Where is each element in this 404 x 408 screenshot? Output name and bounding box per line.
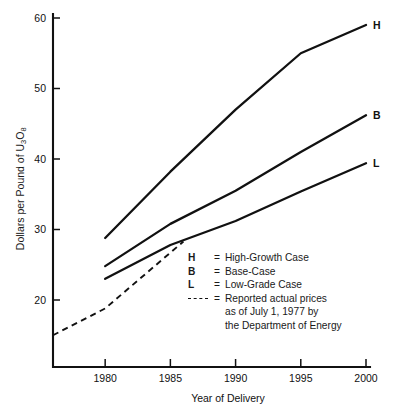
chart-figure: 203040506019801985199019952000 HBL Year … (0, 0, 404, 408)
x-axis-tick-label: 1995 (289, 372, 313, 384)
y-axis-title: Dollars per Pound of U3O8 (15, 99, 27, 279)
dashed-line-swatch-icon (188, 292, 214, 299)
legend-item: L=Low-Grade Case (188, 278, 342, 292)
legend-equals-sign: = (214, 265, 225, 279)
legend-key-L: L (188, 278, 214, 292)
legend-label: High-Growth Case (225, 251, 309, 265)
legend-label: Reported actual prices as of July 1, 197… (225, 292, 342, 333)
y-axis-tick-label: 40 (34, 153, 46, 165)
legend-equals-sign: = (214, 292, 225, 306)
legend-item: =Reported actual prices as of July 1, 19… (188, 292, 342, 333)
series-line-reported-actual (53, 241, 183, 335)
series-end-label-H: H (373, 19, 381, 31)
x-axis-tick-label: 1985 (159, 372, 183, 384)
series-line-H (105, 25, 366, 238)
x-axis-title: Year of Delivery (191, 392, 265, 404)
x-axis-tick-label: 1990 (224, 372, 248, 384)
x-axis-tick-label: 1980 (93, 372, 117, 384)
series-end-label-B: B (373, 109, 381, 121)
y-axis-tick-label: 50 (34, 82, 46, 94)
series-end-labels-group: HBL (373, 19, 381, 169)
dashed-swatch (188, 298, 208, 299)
y-axis-tick-label: 20 (34, 294, 46, 306)
legend-equals-sign: = (214, 278, 225, 292)
chart-legend: H=High-Growth CaseB=Base-CaseL=Low-Grade… (188, 251, 342, 333)
series-line-B (105, 115, 366, 266)
y-axis-tick-label: 30 (34, 223, 46, 235)
legend-item: B=Base-Case (188, 265, 342, 279)
legend-key-B: B (188, 265, 214, 279)
series-end-label-L: L (373, 157, 380, 169)
y-axis-tick-label: 60 (34, 12, 46, 24)
legend-label: Base-Case (225, 265, 275, 279)
legend-key-H: H (188, 251, 214, 265)
legend-equals-sign: = (214, 251, 225, 265)
legend-item: H=High-Growth Case (188, 251, 342, 265)
y-axis-title-text: Dollars per Pound of U3O8 (14, 127, 26, 250)
x-axis-tick-label: 2000 (354, 372, 378, 384)
legend-label: Low-Grade Case (225, 278, 302, 292)
line-chart-canvas: 203040506019801985199019952000 HBL Year … (0, 0, 404, 408)
